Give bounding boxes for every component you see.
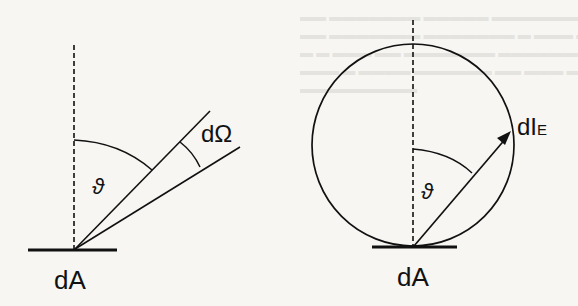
theta-arc <box>413 149 472 173</box>
left-diagram: ϑ dΩ dA <box>28 45 240 295</box>
right-diagram: ϑ dIE dA <box>312 20 547 292</box>
arrowhead-icon <box>497 131 511 145</box>
intensity-label-subscript: E <box>537 121 547 138</box>
solid-angle-arc <box>180 142 200 167</box>
radiometry-figure: ϑ dΩ dA ϑ dIE dA <box>0 0 578 306</box>
intensity-label-main: dI <box>517 113 537 140</box>
surface-element-label: dA <box>397 262 429 292</box>
theta-arc <box>74 140 152 170</box>
surface-element-label: dA <box>54 265 86 295</box>
solid-angle-label: dΩ <box>201 120 232 147</box>
intensity-label: dIE <box>517 113 547 140</box>
theta-label: ϑ <box>421 179 434 204</box>
document-page: ▬▬ ▬▬▬▬▬▬▬ ▬▬▬▬▬ ▬▬▬▬▬▬▬▬▬▬▬ ▬▬ ▬▬▬▬▬▬▬ … <box>0 0 578 306</box>
theta-label: ϑ <box>92 174 105 199</box>
